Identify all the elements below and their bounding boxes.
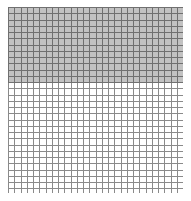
- figure-root: [0, 0, 191, 201]
- shaded-region: [8, 7, 183, 83]
- plot-area: [8, 7, 183, 193]
